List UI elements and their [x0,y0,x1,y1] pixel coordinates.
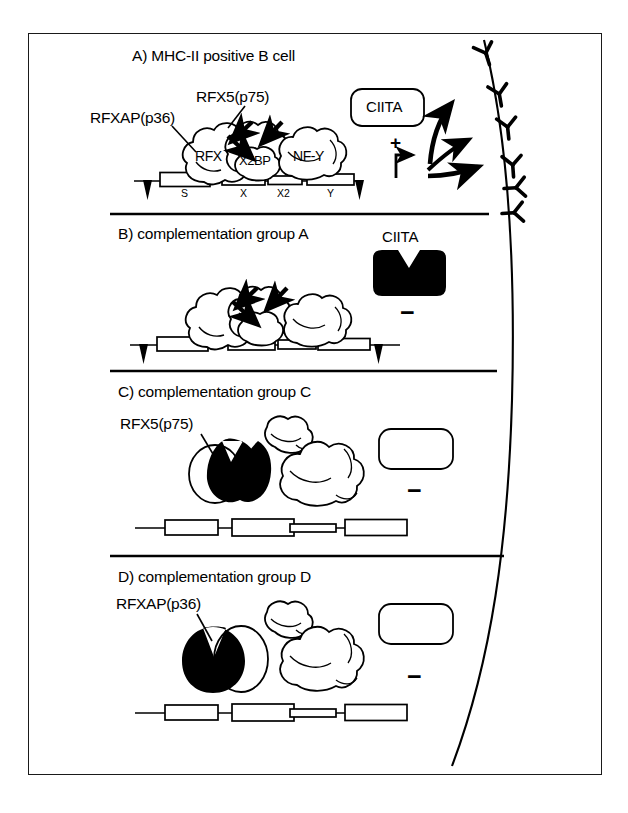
dna-box-y [345,705,407,721]
mhc-ii-molecule [488,84,510,108]
nfy-cloud-label: NF-Y [293,148,324,164]
dna-box-x2 [290,709,336,717]
rfx5-defective-c [207,439,271,503]
panel-d-outcome-sign: − [407,664,422,689]
ciita-box-b [373,250,446,296]
mhc-ii-molecule [501,202,523,222]
panel-c-artwork [135,416,453,536]
dna-box-y [345,520,407,536]
dna-box-s [165,520,218,535]
mar-triangle-right [374,344,383,364]
dna-box-s [165,705,218,720]
panel-b-artwork [130,250,446,364]
panel-d-dna-boxes [165,704,407,721]
mhc-ii-molecules [473,42,525,223]
dna-label-y: Y [327,187,334,199]
nfy-cloud-b [284,294,351,346]
panel-a-transcription-sign: + [390,133,401,152]
x2bp-cloud-label: X2BP [239,153,271,168]
dna-label-s: S [181,187,188,199]
panel-b-title: B) complementation group A [118,225,308,243]
mhc-trafficking-arrows [428,104,478,176]
panel-a-title: A) MHC-II positive B cell [132,47,295,65]
panel-a-ciita-label: CIITA [366,98,402,115]
panel-d-rfxap-callout: RFXAP(p36) [116,595,201,613]
dna-box-x [232,704,294,721]
panel-d-title: D) complementation group D [118,568,311,586]
panel-a-rfx5-callout: RFX5(p75) [196,88,269,106]
rfx-cloud-label: RFX [195,148,222,164]
dna-label-x: X [240,187,247,199]
mar-triangle-left [139,344,148,364]
panel-c-title: C) complementation group C [118,383,311,401]
cell-membrane [428,40,526,766]
panel-c-outcome-sign: − [407,478,422,503]
ciita-box-c [379,429,453,469]
panel-c-dna-boxes [165,519,407,536]
mar-triangle-left [143,180,152,200]
dna-label-x2: X2 [277,187,290,199]
ciita-box-d [379,604,453,644]
dna-box-x [232,519,294,536]
panel-d-artwork [135,601,453,721]
dna-box-x2 [290,524,336,532]
x2bp-cloud-b [238,312,283,346]
mar-triangle-right [355,180,364,200]
panel-a-rfxap-callout: RFXAP(p36) [90,109,175,127]
transcription-arrow-a [396,155,412,178]
panel-b-ciita-label: CIITA [382,228,418,245]
panel-c-rfx5-callout: RFX5(p75) [120,415,193,433]
figure-canvas: A) MHC-II positive B cell RFX5(p75) RFXA… [0,0,628,813]
panel-b-outcome-sign: − [400,300,415,325]
